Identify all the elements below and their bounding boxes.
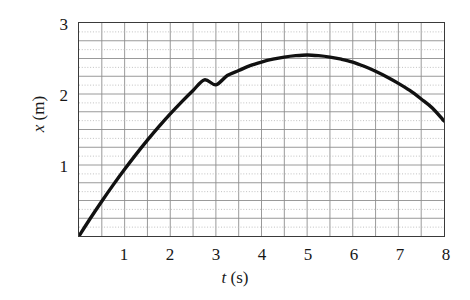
x-tick-label-4: 4	[258, 246, 267, 263]
x-tick-label-6: 6	[350, 246, 359, 263]
x-tick-label-5: 5	[304, 246, 313, 263]
position-curve	[79, 23, 444, 236]
x-tick-label-2: 2	[166, 246, 175, 263]
x-tick-label-7: 7	[396, 246, 405, 263]
x-axis-title-unit: (s)	[231, 268, 249, 287]
plot-area	[78, 22, 445, 237]
y-axis-title-variable: x	[29, 125, 48, 133]
x-axis-title: t (s)	[0, 268, 470, 288]
x-tick-label-3: 3	[212, 246, 221, 263]
y-axis-title-unit: (m)	[29, 96, 48, 121]
y-axis-title: x (m)	[29, 69, 49, 159]
position-time-graph-figure: 3 2 1 1 2 3 4 5 6 7 8 t (s) x (m)	[0, 0, 470, 300]
y-tick-label-3: 3	[46, 16, 68, 33]
x-tick-label-8: 8	[442, 246, 451, 263]
y-tick-label-2: 2	[46, 87, 68, 104]
x-tick-label-1: 1	[120, 246, 129, 263]
y-tick-label-1: 1	[46, 158, 68, 175]
